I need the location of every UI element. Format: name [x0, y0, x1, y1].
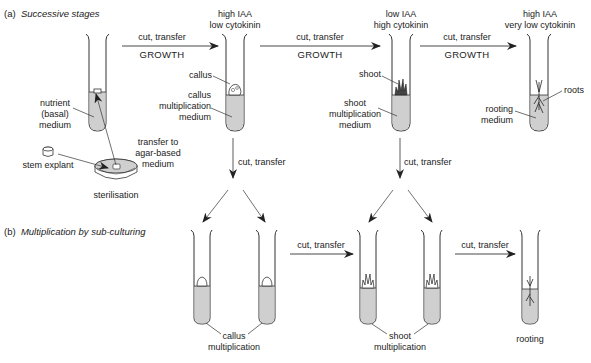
- callus-label: callus: [189, 70, 212, 80]
- section-a-title: (a) Successive stages: [4, 9, 100, 19]
- tube4-medium-label-1: rooting: [485, 104, 513, 114]
- down-arrow1-label: cut, transfer: [238, 157, 286, 167]
- tube-b-shoot-1: [357, 230, 378, 324]
- roots-label: roots: [564, 85, 584, 95]
- tube2-medium-label-1: callus: [188, 90, 211, 100]
- section-b-marker: (b): [4, 226, 16, 237]
- shoot-growth: [395, 79, 407, 95]
- tube3-medium-label-1: shoot: [344, 98, 366, 108]
- transfer-label-3: medium: [142, 159, 174, 169]
- tube-b-callus-2: [256, 230, 277, 324]
- shoot-label: shoot: [359, 69, 381, 79]
- tube1-medium-label-1: nutrient: [40, 98, 70, 108]
- section-b-label: Multiplication by sub-culturing: [21, 226, 146, 237]
- transfer-label-2: agar-based: [135, 148, 181, 158]
- tube-1: [86, 34, 109, 131]
- b-arrow1-label: cut, transfer: [297, 240, 345, 250]
- tube-2: [222, 34, 247, 131]
- arrow1-label: cut, transfer: [138, 32, 186, 42]
- arrow2-growth: GROWTH: [297, 50, 342, 60]
- arrow1-growth: GROWTH: [139, 50, 184, 60]
- section-a-marker: (a): [4, 8, 16, 19]
- tube-b-rooting: [520, 230, 540, 324]
- tube1-medium-label-2: (basal): [41, 109, 69, 119]
- callus-blob: [229, 84, 241, 95]
- tube2-medium-label-3: medium: [179, 112, 211, 122]
- tube3-medium-label-3: medium: [339, 120, 371, 130]
- b-arrow2-label: cut, transfer: [461, 240, 509, 250]
- sterilisation-label: sterilisation: [93, 190, 138, 200]
- arrow3-label: cut, transfer: [443, 32, 491, 42]
- tube4-header-2: very low cytokinin: [505, 20, 576, 30]
- diagram-drawing: [0, 0, 591, 363]
- tube-b-callus-1: [191, 230, 212, 324]
- tube-b-shoot-2: [421, 230, 442, 324]
- tube4-header-1: high IAA: [523, 9, 557, 19]
- b-rooting-label: rooting: [516, 334, 544, 344]
- tube2-header-2: low cytokinin: [209, 20, 260, 30]
- stem-explant: [43, 147, 53, 157]
- arrow3-growth: GROWTH: [444, 50, 489, 60]
- explant-piece: [94, 89, 101, 93]
- stem-explant-label: stem explant: [22, 160, 73, 170]
- tube4-medium-label-2: medium: [481, 115, 513, 125]
- b-shoot-label-2: multiplication: [374, 342, 426, 352]
- b-callus-label-2: multiplication: [208, 342, 260, 352]
- b-callus-label-1: callus: [222, 331, 245, 341]
- petri-dish: [95, 159, 137, 179]
- tube1-medium-label-3: medium: [39, 120, 71, 130]
- tube2-header-1: high IAA: [218, 9, 252, 19]
- tube3-medium-label-2: multiplication: [329, 109, 381, 119]
- tube3-header-2: high cytokinin: [374, 20, 429, 30]
- section-b-title: (b) Multiplication by sub-culturing: [4, 227, 146, 237]
- tube3-header-1: low IAA: [386, 9, 417, 19]
- b-shoot-label-1: shoot: [389, 331, 411, 341]
- tube-3: [389, 34, 413, 131]
- down-arrow2-label: cut, transfer: [404, 157, 452, 167]
- tube2-medium-label-2: multiplication: [159, 101, 211, 111]
- transfer-label-1: transfer to: [138, 137, 179, 147]
- section-a-label: Successive stages: [21, 8, 100, 19]
- arrow2-label: cut, transfer: [296, 32, 344, 42]
